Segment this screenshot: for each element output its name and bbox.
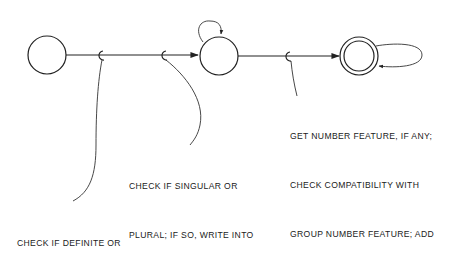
self-loop-s2 [376,44,422,67]
annotation-definite-indefinite: CHECK IF DEFINITE OR INDEFINITE; IF SO, … [17,203,138,278]
annotation-singular-plural: CHECK IF SINGULAR OR PLURAL; IF SO, WRIT… [129,146,254,278]
annotation-line: CHECK IF SINGULAR OR [129,178,254,194]
annotation-line: CHECK COMPATIBILITY WITH [290,177,434,193]
annotation-line: CHECK IF DEFINITE OR [17,235,138,251]
leader-line-2 [166,60,201,145]
leader-line-1 [73,60,102,201]
annotation-line: IF GROUP NUMBER FEATURE [290,274,434,278]
arc-s0-s1 [66,51,198,60]
annotation-number-feature: GET NUMBER FEATURE, IF ANY; CHECK COMPAT… [290,96,434,278]
state-intermediate [199,21,238,75]
leader-line-3 [291,61,297,96]
state-final [340,37,422,75]
annotation-line: GET NUMBER FEATURE, IF ANY; [290,128,434,144]
state-initial [28,36,66,74]
annotation-line: GROUP NUMBER FEATURE; ADD [290,226,434,242]
arc-s1-s2 [238,52,339,61]
annotation-line: PLURAL; IF SO, WRITE INTO [129,227,254,243]
